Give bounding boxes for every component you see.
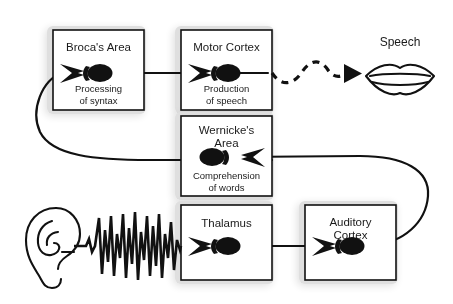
motor-cortex-subtitle-line1: Production: [204, 83, 249, 94]
wernickes-area-title-line2: Area: [214, 137, 239, 149]
dashed-arrow-icon: [272, 62, 362, 83]
language-pathway-diagram: Broca's Area Processing of syntax Motor …: [0, 0, 453, 304]
sound-wave-icon: [74, 212, 181, 280]
speech-label: Speech: [380, 35, 421, 49]
wernickes-area-title-line1: Wernicke's: [199, 124, 255, 136]
node-motor-cortex[interactable]: Motor Cortex Production of speech: [181, 30, 272, 110]
node-thalamus[interactable]: Thalamus: [181, 205, 272, 280]
auditory-cortex-title-line1: Auditory: [329, 216, 371, 228]
ear-icon: [26, 208, 80, 288]
mouth-icon: [366, 65, 434, 95]
diagram-canvas: Broca's Area Processing of syntax Motor …: [0, 0, 453, 304]
brocas-area-subtitle-line2: of syntax: [79, 95, 117, 106]
thalamus-title: Thalamus: [201, 217, 252, 229]
node-auditory-cortex[interactable]: Auditory Cortex: [305, 205, 396, 280]
motor-cortex-subtitle-line2: of speech: [206, 95, 247, 106]
node-wernickes-area[interactable]: Wernicke's Area Comprehension of words: [181, 116, 272, 196]
brocas-area-subtitle-line1: Processing: [75, 83, 122, 94]
node-brocas-area[interactable]: Broca's Area Processing of syntax: [53, 30, 144, 110]
wernickes-area-subtitle-line2: of words: [209, 182, 245, 193]
brocas-area-title: Broca's Area: [66, 41, 131, 53]
wernickes-area-subtitle-line1: Comprehension: [193, 170, 260, 181]
motor-cortex-title: Motor Cortex: [193, 41, 260, 53]
